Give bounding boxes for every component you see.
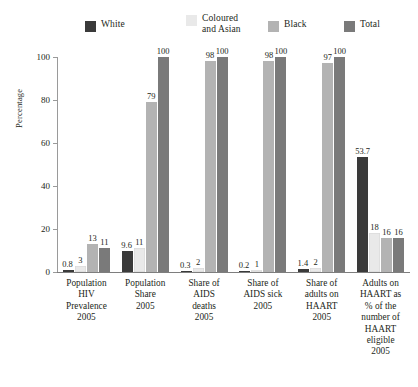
bar-group-bars: 9.61179100 [116,57,175,272]
bar[interactable] [275,57,286,272]
x-axis-category-label-line: % of the [345,301,416,312]
bar[interactable] [357,157,368,272]
bar-holder: 1.4 [298,57,309,272]
bar-holder: 0.3 [181,57,192,272]
bar-value-label: 98 [206,51,215,60]
bar-chart: Percentage 020406080100 0.8313119.611791… [0,0,418,387]
bar-value-label: 0.8 [62,260,73,269]
bar-group: 1.4297100 [292,57,351,272]
bar-holder: 100 [334,57,345,272]
bar-value-label: 100 [333,47,346,56]
bar-holder: 98 [205,57,216,272]
bar-group: 53.7181616 [351,57,410,272]
bar[interactable] [134,248,145,272]
y-tick-label: 20 [24,224,50,234]
bar-value-label: 2 [196,258,200,267]
bar-group-bars: 0.831311 [57,57,116,272]
bar-holder: 97 [322,57,333,272]
bar[interactable] [146,102,157,272]
bar-group: 0.2198100 [234,57,293,272]
bar[interactable] [87,244,98,272]
bar-holder: 2 [193,57,204,272]
bar[interactable] [205,61,216,272]
y-tick-label: 60 [24,138,50,148]
bar-value-label: 53.7 [355,147,370,156]
bar-holder: 100 [275,57,286,272]
bar-value-label: 98 [265,51,274,60]
bar[interactable] [63,270,74,272]
bar[interactable] [322,63,333,272]
bar[interactable] [239,271,250,273]
x-axis-category-label-line: number of [345,312,416,323]
bar-holder: 0.2 [239,57,250,272]
y-tick-label: 0 [24,267,50,277]
bar-holder: 11 [99,57,110,272]
x-axis-category-label-line: 2005 [169,312,240,323]
bar-holder: 11 [134,57,145,272]
bar-holder: 16 [381,57,392,272]
bar[interactable] [75,266,86,272]
bar-value-label: 1 [255,260,259,269]
x-axis-category-label-line: Adults on [345,278,416,289]
bar-group-bars: 1.4297100 [292,57,351,272]
bar-value-label: 11 [100,238,108,247]
bar[interactable] [310,268,321,272]
bar[interactable] [217,57,228,272]
bar-group-bars: 0.3298100 [175,57,234,272]
bar[interactable] [181,271,192,273]
bar-holder: 79 [146,57,157,272]
bar[interactable] [193,268,204,272]
bar-value-label: 2 [314,258,318,267]
bar[interactable] [122,251,133,272]
bar-value-label: 100 [216,47,229,56]
x-axis-category-label: Adults onHAART as% of thenumber ofHAARTe… [345,278,416,358]
bar-holder: 98 [263,57,274,272]
bar[interactable] [298,269,309,272]
x-axis-line [57,272,410,273]
bar-holder: 2 [310,57,321,272]
bar[interactable] [381,238,392,272]
bar[interactable] [334,57,345,272]
bar-value-label: 11 [135,238,143,247]
bar[interactable] [158,57,169,272]
bar-value-label: 18 [370,223,379,232]
bar-group-bars: 53.7181616 [351,57,410,272]
bar-holder: 100 [217,57,228,272]
bar-holder: 13 [87,57,98,272]
y-tick-label: 80 [24,95,50,105]
x-axis-category-label-line: 2005 [345,346,416,357]
bar-value-label: 79 [147,92,156,101]
bar-holder: 0.8 [63,57,74,272]
bar-group: 9.61179100 [116,57,175,272]
bar-value-label: 9.6 [121,241,132,250]
bar-value-label: 97 [323,53,332,62]
bar-value-label: 16 [394,228,403,237]
bar[interactable] [251,270,262,272]
y-tick-label: 100 [24,52,50,62]
bar-group: 0.3298100 [175,57,234,272]
bar-value-label: 1.4 [298,259,309,268]
bar-value-label: 13 [88,234,97,243]
bar[interactable] [369,233,380,272]
plot-area: 0.8313119.611791000.32981000.21981001.42… [57,57,410,272]
bar[interactable] [263,61,274,272]
bar-holder: 1 [251,57,262,272]
bar-holder: 3 [75,57,86,272]
bar-holder: 18 [369,57,380,272]
x-axis-category-label-line: 2005 [51,312,122,323]
bar[interactable] [99,248,110,272]
bar-group-bars: 0.2198100 [234,57,293,272]
bar-value-label: 100 [275,47,288,56]
bar-holder: 100 [158,57,169,272]
bar-value-label: 0.2 [239,261,250,270]
x-axis-category-label-line: HAART as [345,289,416,300]
bar-value-label: 100 [157,47,170,56]
y-tick-label: 40 [24,181,50,191]
bar-value-label: 16 [382,228,391,237]
bar-group: 0.831311 [57,57,116,272]
bar[interactable] [393,238,404,272]
bar-holder: 53.7 [357,57,368,272]
bar-value-label: 0.3 [180,261,191,270]
x-axis-category-label-line: eligible [345,335,416,346]
x-axis-category-label-line: HAART [345,324,416,335]
